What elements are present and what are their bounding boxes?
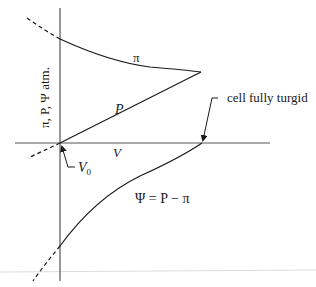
pi-curve-extrapolation [27,18,60,39]
pi-curve [60,39,201,72]
y-axis-label: π, P, Ψ atm. [37,67,52,128]
water-relations-diagram: π, P, Ψ atm. π P V cell fully turgid Ψ =… [0,0,316,287]
psi-equation-label: Ψ = P − π [135,191,189,206]
pressure-label: P [114,102,124,117]
pressure-line [60,72,201,143]
origin-pointer-arrow [62,147,75,167]
pi-label: π [133,50,140,65]
psi-curve-extrapolation [33,246,60,281]
turgid-pointer-arrow [203,98,218,140]
origin-label: V0 [78,160,92,177]
x-axis-label: V [113,145,123,160]
turgid-annotation: cell fully turgid [227,90,308,105]
page-baseline [0,270,316,272]
pressure-line-extrapolation [28,143,60,158]
